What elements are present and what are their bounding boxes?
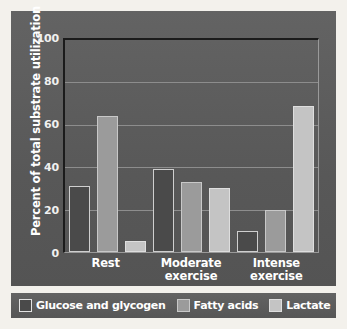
x-category-label-line: exercise [234,270,319,283]
x-axis-category-labels: RestModerateexerciseIntenseexercise [63,257,319,283]
legend-swatch-icon [19,299,32,312]
bar [209,188,230,252]
x-category-label-line: exercise [148,270,233,283]
y-tick-label: 100 [37,32,59,45]
legend-item: Lactate [269,299,330,312]
legend-item: Fatty acids [177,299,259,312]
x-category-label: Intenseexercise [234,257,319,283]
bar [125,241,146,252]
legend-label: Glucose and glycogen [36,299,166,312]
bar-group [149,40,233,252]
legend-swatch-icon [269,299,282,312]
bar-group [234,40,318,252]
y-tick-label: 20 [44,204,59,217]
legend-swatch-icon [177,299,190,312]
bar [69,186,90,252]
x-category-label-line: Rest [63,257,148,270]
bar [265,210,286,252]
bar [237,231,258,252]
bar-groups [65,40,318,252]
x-category-label: Rest [63,257,148,283]
legend-label: Lactate [286,299,330,312]
x-category-label: Moderateexercise [148,257,233,283]
bar [293,106,314,252]
y-tick-label: 40 [44,161,59,174]
bar [97,116,118,252]
plot-area [63,38,319,253]
bar-group [65,40,149,252]
chart-figure: Percent of total substrate utilization 1… [0,0,347,329]
bar [153,169,174,252]
chart-panel: Percent of total substrate utilization 1… [11,11,336,286]
y-tick-label: 80 [44,75,59,88]
legend-item: Glucose and glycogen [19,299,166,312]
chart-legend: Glucose and glycogenFatty acidsLactate [11,293,336,318]
y-tick-label: 60 [44,118,59,131]
legend-label: Fatty acids [194,299,259,312]
bar [181,182,202,252]
y-tick-label: 0 [52,247,59,260]
y-axis-tick-labels: 100806040200 [25,38,59,253]
